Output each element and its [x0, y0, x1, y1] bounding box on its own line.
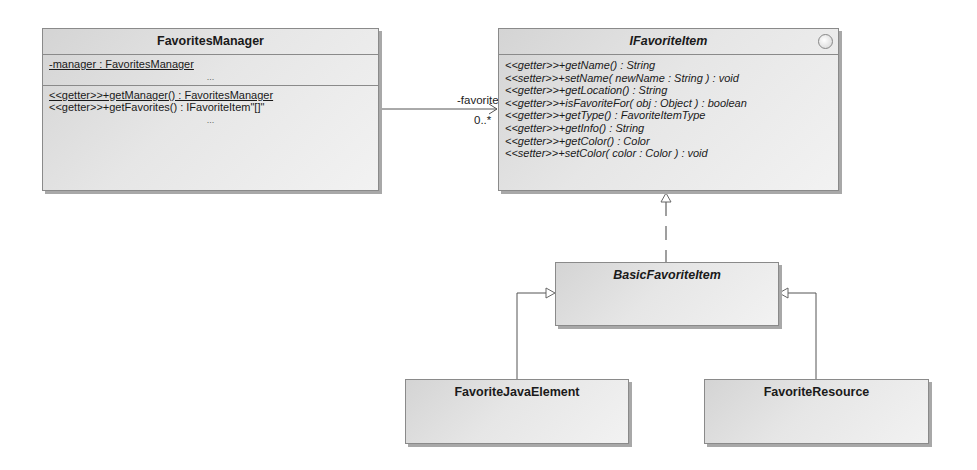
attributes-compartment: -manager : FavoritesManager ...	[43, 54, 378, 85]
hollow-triangle-icon	[546, 288, 555, 298]
interface-circle-icon	[818, 34, 833, 49]
class-name: FavoritesManager	[43, 29, 378, 54]
operations-compartment: <<getter>>+getManager() : FavoritesManag…	[43, 85, 378, 128]
operation: <<getter>>+isFavoriteFor( obj : Object )…	[505, 97, 832, 110]
class-name: FavoriteJavaElement	[406, 380, 628, 405]
realization-basic-to-interface	[661, 193, 671, 262]
hollow-triangle-icon	[779, 288, 788, 298]
ellipsis: ...	[49, 114, 372, 126]
operation: <<getter>>+getName() : String	[505, 59, 832, 72]
class-favorite-java-element[interactable]: FavoriteJavaElement	[405, 379, 629, 444]
interface-ifavorite-item[interactable]: IFavoriteItem <<getter>>+getName() : Str…	[498, 28, 839, 191]
class-name: IFavoriteItem	[499, 29, 838, 54]
class-favorite-resource[interactable]: FavoriteResource	[704, 379, 929, 444]
attribute: -manager : FavoritesManager	[49, 58, 372, 71]
interface-name: IFavoriteItem	[630, 34, 708, 48]
class-name: BasicFavoriteItem	[556, 263, 778, 288]
class-name: FavoriteResource	[705, 380, 928, 405]
operation: <<getter>>+getType() : FavoriteItemType	[505, 109, 832, 122]
operations-compartment: <<getter>>+getName() : String <<setter>>…	[499, 54, 838, 162]
operation: <<setter>>+setName( newName : String ) :…	[505, 72, 832, 85]
hollow-triangle-icon	[661, 193, 671, 202]
operation: <<getter>>+getInfo() : String	[505, 122, 832, 135]
generalization-resource	[779, 288, 816, 379]
operation: <<setter>>+setColor( color : Color ) : v…	[505, 147, 832, 160]
class-favorites-manager[interactable]: FavoritesManager -manager : FavoritesMan…	[42, 28, 379, 191]
association-multiplicity-label: 0..*	[474, 114, 491, 126]
operation: <<getter>>+getLocation() : String	[505, 84, 832, 97]
operation: <<getter>>+getFavorites() : IFavoriteIte…	[49, 101, 372, 114]
generalization-java-element	[517, 288, 555, 379]
operation: <<getter>>+getColor() : Color	[505, 135, 832, 148]
operation: <<getter>>+getManager() : FavoritesManag…	[49, 89, 372, 102]
ellipsis: ...	[49, 71, 372, 83]
class-basic-favorite-item[interactable]: BasicFavoriteItem	[555, 262, 779, 326]
